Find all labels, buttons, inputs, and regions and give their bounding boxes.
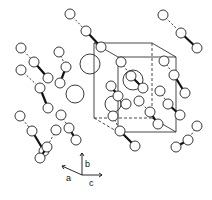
atom <box>159 56 169 66</box>
atom <box>158 10 168 20</box>
molecule <box>116 57 148 93</box>
atom <box>71 135 81 145</box>
molecule <box>16 65 53 113</box>
large-atom <box>80 54 100 74</box>
cell-depth-edge <box>152 43 176 57</box>
axis-label-c: c <box>89 178 94 188</box>
atom <box>43 73 53 83</box>
atom <box>175 110 185 120</box>
axis-label-a: a <box>66 173 71 183</box>
atom <box>138 83 148 93</box>
molecule <box>106 81 131 109</box>
molecules <box>15 9 202 163</box>
atom <box>106 81 116 91</box>
atom <box>115 126 125 136</box>
crystal-structure-diagram: a b c <box>0 0 212 200</box>
molecule <box>16 43 53 83</box>
large-atom <box>66 85 84 103</box>
atom <box>54 47 64 57</box>
molecule <box>108 111 140 151</box>
cell-front-face <box>118 57 176 132</box>
axis-a-arrow <box>62 166 82 175</box>
atom <box>169 70 179 80</box>
atom <box>61 62 71 72</box>
atom <box>35 83 45 93</box>
atom <box>16 65 26 75</box>
atom <box>134 96 144 106</box>
atom <box>116 57 126 67</box>
large-atoms <box>66 54 143 112</box>
atom <box>51 125 61 135</box>
atom <box>16 43 26 53</box>
molecule <box>65 9 106 52</box>
atom <box>153 119 163 129</box>
atom <box>43 103 53 113</box>
atom <box>176 28 186 38</box>
atom <box>55 78 65 88</box>
atom <box>113 91 123 101</box>
atom <box>126 71 136 81</box>
molecule <box>54 47 71 88</box>
atom <box>35 153 45 163</box>
atom <box>192 43 202 53</box>
atom <box>65 9 75 19</box>
atom <box>108 111 118 121</box>
atom <box>81 26 91 36</box>
molecule <box>158 10 202 53</box>
atom <box>42 142 52 152</box>
atom <box>27 126 37 136</box>
atom <box>130 141 140 151</box>
atom <box>171 142 181 152</box>
atom <box>29 57 39 67</box>
atom <box>56 110 66 120</box>
molecule <box>134 96 163 129</box>
atom <box>163 99 173 109</box>
atom <box>192 121 202 131</box>
atom <box>96 42 106 52</box>
atom <box>180 88 190 98</box>
atom <box>64 123 74 133</box>
atom <box>183 135 193 145</box>
atom <box>121 99 131 109</box>
atom <box>145 107 155 117</box>
atom <box>15 111 25 121</box>
atom <box>155 86 165 96</box>
axis-label-b: b <box>85 159 90 169</box>
